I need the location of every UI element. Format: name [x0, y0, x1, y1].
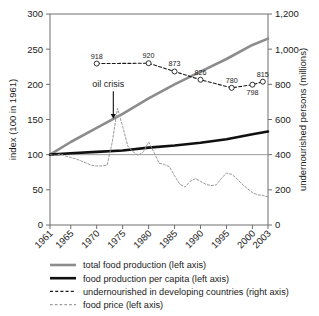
data-point-label: 815 [257, 70, 269, 79]
data-point-marker [260, 79, 265, 84]
y-tick-label-left: 50 [32, 184, 43, 195]
plot-frame [50, 14, 268, 225]
data-point-label: 826 [195, 68, 207, 77]
y-axis-left: 050100150200250300 [27, 8, 50, 230]
x-tick-label: 2003 [250, 228, 273, 251]
data-point-label: 780 [226, 76, 238, 85]
data-point-marker [250, 82, 255, 87]
x-tick-label: 1975 [105, 228, 128, 251]
y-axis-left-title: index (100 in 1961) [7, 79, 18, 160]
x-tick-label: 1970 [79, 228, 102, 251]
chart-svg: 05010015020025030002004006008001,0001,20… [0, 0, 319, 316]
y-tick-label-right: 0 [275, 219, 280, 230]
x-tick-label: 1965 [53, 228, 76, 251]
data-point-label: 918 [91, 52, 103, 61]
legend-label: total food production (left axis) [83, 260, 206, 270]
x-tick-label: 1985 [157, 228, 180, 251]
data-point-marker [198, 77, 203, 82]
y-tick-label-left: 150 [27, 114, 43, 125]
legend-label: food price (left axis) [83, 300, 163, 310]
y-axis-right-title: undernourished persons (millions) [297, 48, 308, 191]
y-tick-label-left: 300 [27, 8, 43, 19]
y-tick-label-left: 200 [27, 79, 43, 90]
y-tick-label-right: 200 [275, 184, 291, 195]
x-tick-label: 1961 [32, 228, 55, 251]
data-point-label: 873 [169, 59, 181, 68]
x-axis: 1961196519701975198019851990199520002003 [32, 225, 273, 250]
y-tick-label-right: 1,000 [275, 44, 299, 55]
chart-legend: total food production (left axis)food pr… [50, 260, 289, 310]
x-tick-label: 1990 [183, 228, 206, 251]
data-point-label: 798 [246, 88, 258, 97]
annotation-label: oil crisis [92, 79, 125, 89]
series-markers-2: 918920873826780798815 [91, 51, 269, 96]
legend-label: undernourished in developing countries (… [83, 287, 289, 297]
y-tick-label-left: 100 [27, 149, 43, 160]
x-tick-label: 1980 [131, 228, 154, 251]
data-point-marker [229, 85, 234, 90]
x-tick-label: 1995 [209, 228, 232, 251]
y-tick-label-right: 800 [275, 79, 291, 90]
y-tick-label-right: 600 [275, 114, 291, 125]
data-point-label: 920 [143, 51, 155, 60]
y-tick-label-right: 400 [275, 149, 291, 160]
data-point-marker [146, 61, 151, 66]
y-tick-label-left: 250 [27, 44, 43, 55]
legend-label: food production per capita (left axis) [83, 274, 229, 284]
y-tick-label-right: 1,200 [275, 8, 299, 19]
chart-figure: 05010015020025030002004006008001,0001,20… [0, 0, 319, 316]
axis-spines [50, 14, 268, 225]
y-tick-label-left: 0 [38, 219, 43, 230]
y-axis-right: 02004006008001,0001,200 [268, 8, 299, 230]
data-point-marker [172, 69, 177, 74]
data-point-marker [94, 61, 99, 66]
